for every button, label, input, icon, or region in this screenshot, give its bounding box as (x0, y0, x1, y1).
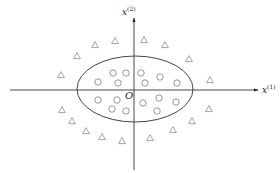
triangle-marker (162, 42, 169, 48)
circle-marker (115, 80, 121, 86)
circle-marker (157, 74, 163, 80)
x1-axis-label-sup: (1) (267, 83, 276, 90)
circle-marker (156, 95, 162, 101)
triangle-marker (189, 118, 196, 124)
triangle-marker (83, 128, 90, 134)
circle-marker (142, 80, 148, 86)
triangle-marker (186, 56, 193, 62)
triangle-marker (206, 106, 213, 112)
triangle-marker (207, 77, 214, 83)
triangle-marker (170, 127, 177, 133)
circle-marker (174, 80, 180, 86)
x2-axis-label-sup: (2) (127, 5, 136, 12)
circle-class-points (95, 70, 180, 114)
triangle-marker (58, 72, 65, 78)
decision-boundary-ellipse (77, 56, 193, 122)
circle-marker (114, 97, 120, 103)
circle-marker (140, 100, 146, 106)
triangle-marker (92, 42, 99, 48)
circle-marker (173, 99, 179, 105)
triangle-marker (99, 134, 106, 140)
circle-marker (154, 108, 160, 114)
classification-diagram (0, 0, 280, 173)
circle-marker (123, 70, 129, 76)
origin-label: O (125, 91, 133, 101)
triangle-marker (69, 118, 76, 124)
triangle-marker (59, 107, 66, 113)
triangle-marker (119, 138, 126, 144)
circle-marker (138, 70, 144, 76)
x1-axis-label: x(1) (262, 84, 276, 95)
circle-marker (95, 97, 101, 103)
circle-marker (123, 108, 129, 114)
triangle-marker (74, 53, 81, 59)
x2-axis-label: x(2) (122, 6, 136, 17)
circle-marker (95, 79, 101, 85)
triangle-marker (141, 37, 148, 43)
circle-marker (110, 70, 116, 76)
circle-marker (109, 106, 115, 112)
triangle-marker (112, 38, 119, 44)
triangle-marker (147, 135, 154, 141)
